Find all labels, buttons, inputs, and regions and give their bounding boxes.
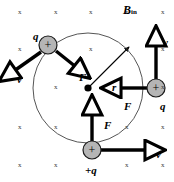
field-x-mark: x <box>18 9 22 16</box>
field-x-mark: x <box>89 46 93 53</box>
charge-right-sign: + <box>153 81 160 95</box>
charge-bottom-velocity-label: v <box>156 149 161 160</box>
magnetic-field-circular-motion-figure: xxxxxxxxxxxxxxxxxxx +++ Bin rqvFqvF+qvF <box>0 0 174 182</box>
radius-arrow <box>88 47 129 88</box>
field-x-mark: x <box>54 84 58 91</box>
field-x-mark: x <box>18 46 22 53</box>
field-symbol: B <box>123 3 131 17</box>
field-x-mark: x <box>54 124 58 131</box>
field-x-mark: x <box>161 9 165 16</box>
charge-right-label: q <box>160 101 166 112</box>
field-x-mark: x <box>18 124 22 131</box>
field-x-mark: x <box>125 124 129 131</box>
field-x-mark: x <box>89 9 93 16</box>
charge-bottom-sign: + <box>89 143 96 157</box>
charge-right-force-label: F <box>124 101 131 112</box>
field-x-mark: x <box>54 162 58 169</box>
field-x-mark: x <box>18 162 22 169</box>
field-x-mark: x <box>161 84 165 91</box>
magnetic-field-label: Bin <box>123 4 137 16</box>
charge-top-left-force-arrow <box>56 51 76 67</box>
charge-top-left-force-label: F <box>79 72 86 83</box>
orbit-center-dot <box>84 84 91 91</box>
charge-right-velocity-label: v <box>163 37 168 48</box>
field-x-mark: x <box>161 124 165 131</box>
field-subscript: in <box>131 8 137 16</box>
charge-top-left-sign: + <box>45 38 52 52</box>
radius-label: r <box>112 82 116 93</box>
charge-bottom-force-label: F <box>104 120 111 131</box>
charge-bottom-label: +q <box>85 165 97 176</box>
charge-top-left-label: q <box>33 31 39 42</box>
field-x-mark: x <box>125 162 129 169</box>
charge-top-left-velocity-label: v <box>17 74 22 85</box>
field-x-mark: x <box>54 9 58 16</box>
field-x-mark: x <box>125 46 129 53</box>
figure-vector-canvas: +++ <box>0 0 174 182</box>
field-x-mark: x <box>161 162 165 169</box>
